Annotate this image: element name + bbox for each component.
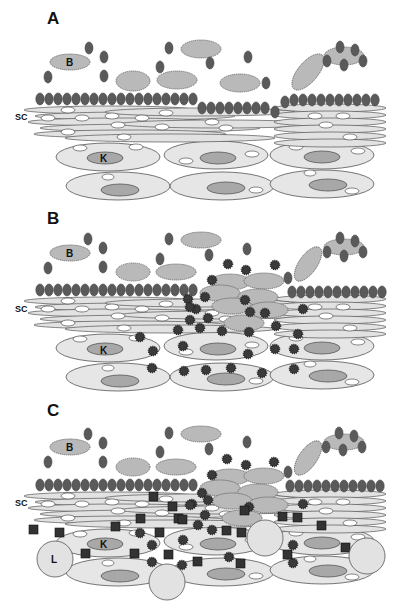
panel-label-a: A	[47, 9, 59, 28]
keratinocyte-label: K	[100, 345, 108, 356]
lymphocyte-label: L	[51, 554, 57, 565]
bacterium-label: B	[66, 442, 73, 453]
panel-c: C B	[15, 401, 386, 600]
panel-b: B B	[15, 209, 386, 391]
panel-label-b: B	[47, 209, 59, 228]
panel-a: A B	[15, 9, 386, 200]
keratinocyte-label: K	[100, 153, 108, 164]
layer-label-sc: SC	[15, 304, 28, 314]
bacterium-label: B	[66, 57, 73, 68]
skin-barrier-diagram: A B	[0, 0, 403, 614]
bacteria-row-right	[286, 480, 384, 492]
bacteria-row-right	[288, 286, 386, 298]
bacterium-label: B	[66, 248, 73, 259]
keratinocyte-label: K	[100, 539, 108, 550]
layer-label-sc: SC	[15, 112, 28, 122]
panel-label-c: C	[47, 401, 59, 420]
bacteria-row-right	[281, 94, 379, 108]
layer-label-sc: SC	[15, 498, 28, 508]
